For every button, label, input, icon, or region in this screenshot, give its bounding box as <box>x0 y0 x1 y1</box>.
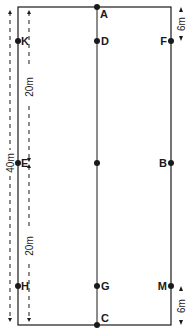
dimension-label-20m-bottom: 20m <box>24 236 35 255</box>
marker-label-a: A <box>100 8 108 20</box>
dimension-6m-top: 6m <box>176 7 187 41</box>
marker-dot <box>94 283 100 289</box>
marker-f: F <box>160 35 174 47</box>
marker-e: E <box>15 157 28 169</box>
marker-b: B <box>159 157 174 169</box>
marker-g: G <box>94 280 110 292</box>
marker-label-g: G <box>101 280 110 292</box>
marker-label-k: K <box>21 35 29 47</box>
dimension-label-40m: 40m <box>5 153 16 172</box>
dimension-label-6m-bottom: 6m <box>176 299 187 313</box>
marker-label-e: E <box>21 157 28 169</box>
marker-dot <box>168 38 174 44</box>
dimension-6m-bottom: 6m <box>176 286 187 325</box>
marker-d: D <box>94 35 109 47</box>
marker-h: H <box>15 280 29 292</box>
marker-dot <box>168 283 174 289</box>
marker-label-d: D <box>101 35 109 47</box>
marker-label-c: C <box>101 312 109 324</box>
marker-label-h: H <box>21 280 29 292</box>
marker-dot <box>94 160 100 166</box>
marker-x <box>94 160 100 166</box>
marker-label-b: B <box>159 157 167 169</box>
marker-dot <box>94 322 100 328</box>
marker-k: K <box>15 35 29 47</box>
marker-dot <box>168 160 174 166</box>
marker-label-m: M <box>158 280 167 292</box>
marker-dot <box>94 38 100 44</box>
dimension-label-20m-top: 20m <box>24 77 35 96</box>
dimension-20m-bottom: 20m <box>24 166 35 320</box>
marker-label-f: F <box>160 35 167 47</box>
dimension-40m: 40m <box>5 12 16 320</box>
dimension-label-6m-top: 6m <box>176 17 187 31</box>
arena-boundary <box>18 7 171 325</box>
arena-diagram: 40m 20m 20m 6m 6m A K D F <box>0 0 194 334</box>
